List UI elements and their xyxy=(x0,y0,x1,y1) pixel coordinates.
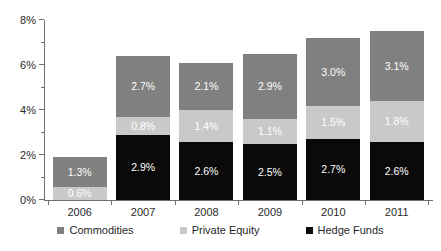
legend-item-pe[interactable]: Private Equity xyxy=(180,224,260,236)
bar-segment-value: 2.5% xyxy=(258,167,282,178)
bar-segment-value: 2.9% xyxy=(131,162,155,173)
bar-segment-value: 1.8% xyxy=(385,116,409,127)
bar-segment-com[interactable]: 3.1% xyxy=(370,31,424,101)
bar-stack[interactable]: 2.6%1.8%3.1% xyxy=(370,20,424,200)
x-axis-label: 2010 xyxy=(321,206,345,218)
y-axis-tick xyxy=(39,19,44,20)
bar-segment-com[interactable]: 3.0% xyxy=(306,38,360,106)
bar-segment-com[interactable]: 1.3% xyxy=(53,157,107,186)
x-axis-label: 2011 xyxy=(385,206,409,218)
bar-segment-com[interactable]: 2.7% xyxy=(116,56,170,117)
bar-segment-value: 0.8% xyxy=(131,121,155,132)
bar-segment-value: 1.5% xyxy=(321,117,345,128)
x-axis-tick xyxy=(48,200,49,205)
bar-segment-pe[interactable]: 1.4% xyxy=(179,110,233,142)
bar-segment-value: 2.6% xyxy=(385,166,409,177)
bar-segment-value: 3.0% xyxy=(321,67,345,78)
plot-area: 0%2%4%6%8%0.6%1.3%2.9%0.8%2.7%2.6%1.4%2.… xyxy=(44,20,432,200)
legend-swatch-icon xyxy=(57,227,64,234)
bar-segment-value: 2.1% xyxy=(195,81,219,92)
y-axis-tick xyxy=(39,64,44,65)
y-axis-label: 8% xyxy=(20,14,36,26)
y-axis-label: 2% xyxy=(20,149,36,161)
legend-swatch-icon xyxy=(306,227,313,234)
bar-segment-value: 2.7% xyxy=(321,164,345,175)
bar-segment-value: 1.4% xyxy=(195,121,219,132)
x-axis-label: 2007 xyxy=(131,206,155,218)
y-axis-tick xyxy=(39,199,44,200)
bar-segment-com[interactable]: 2.1% xyxy=(179,63,233,110)
bar-stack[interactable]: 2.9%0.8%2.7% xyxy=(116,20,170,200)
y-axis-minor-tick xyxy=(41,177,44,178)
bar-segment-value: 0.6% xyxy=(68,188,92,199)
bar-segment-value: 1.1% xyxy=(258,126,282,137)
bar-segment-com[interactable]: 2.9% xyxy=(243,54,297,119)
x-axis-label: 2006 xyxy=(67,206,91,218)
x-axis-tick xyxy=(111,200,112,205)
bar-segment-hedge[interactable]: 2.6% xyxy=(370,142,424,201)
y-axis-tick xyxy=(39,154,44,155)
x-axis-label: 2008 xyxy=(194,206,218,218)
legend-item-hedge[interactable]: Hedge Funds xyxy=(306,224,384,236)
y-axis-minor-tick xyxy=(41,87,44,88)
x-axis-tick xyxy=(302,200,303,205)
y-axis-label: 0% xyxy=(20,194,36,206)
bar-segment-value: 1.3% xyxy=(68,167,92,178)
y-axis-minor-tick xyxy=(41,132,44,133)
bar-segment-pe[interactable]: 0.6% xyxy=(53,187,107,201)
bar-stack[interactable]: 2.7%1.5%3.0% xyxy=(306,20,360,200)
legend-swatch-icon xyxy=(180,227,187,234)
bar-segment-pe[interactable]: 1.5% xyxy=(306,106,360,140)
chart-legend: CommoditiesPrivate EquityHedge Funds xyxy=(0,224,441,236)
bar-segment-pe[interactable]: 1.8% xyxy=(370,101,424,142)
legend-label: Commodities xyxy=(69,224,133,236)
bar-segment-pe[interactable]: 0.8% xyxy=(116,117,170,135)
bar-segment-value: 2.6% xyxy=(195,166,219,177)
y-axis-tick xyxy=(39,109,44,110)
bar-segment-hedge[interactable]: 2.6% xyxy=(179,142,233,201)
y-axis-label: 4% xyxy=(20,104,36,116)
bar-segment-hedge[interactable]: 2.7% xyxy=(306,139,360,200)
bar-segment-value: 2.9% xyxy=(258,81,282,92)
x-axis-tick xyxy=(175,200,176,205)
bar-segment-pe[interactable]: 1.1% xyxy=(243,119,297,144)
bar-stack[interactable]: 2.5%1.1%2.9% xyxy=(243,20,297,200)
y-axis-minor-tick xyxy=(41,42,44,43)
legend-label: Private Equity xyxy=(192,224,260,236)
x-axis-tick xyxy=(238,200,239,205)
bar-segment-value: 3.1% xyxy=(385,61,409,72)
bar-stack[interactable]: 2.6%1.4%2.1% xyxy=(179,20,233,200)
legend-label: Hedge Funds xyxy=(318,224,384,236)
bar-stack[interactable]: 0.6%1.3% xyxy=(53,20,107,200)
x-axis-tick xyxy=(428,200,429,205)
bar-segment-hedge[interactable]: 2.5% xyxy=(243,144,297,200)
bar-segment-hedge[interactable]: 2.9% xyxy=(116,135,170,200)
x-axis-label: 2009 xyxy=(258,206,282,218)
x-axis-tick xyxy=(365,200,366,205)
legend-item-com[interactable]: Commodities xyxy=(57,224,133,236)
bar-segment-value: 2.7% xyxy=(131,81,155,92)
y-axis-label: 6% xyxy=(20,59,36,71)
stacked-bar-chart: 0%2%4%6%8%0.6%1.3%2.9%0.8%2.7%2.6%1.4%2.… xyxy=(0,0,441,251)
